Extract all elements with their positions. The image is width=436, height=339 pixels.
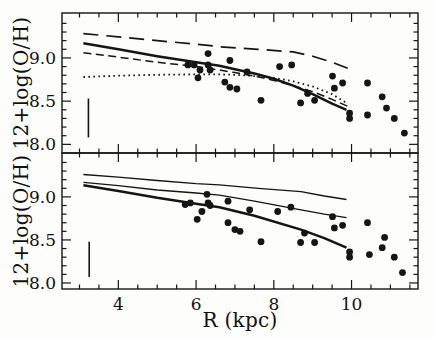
- bottom-panel-y-tick-label: 9.0: [29, 187, 56, 207]
- bottom-panel-data-point: [187, 200, 194, 207]
- top-panel-data-point: [401, 130, 408, 137]
- bottom-panel-model-middle-solid-thin-line: [83, 182, 346, 217]
- bottom-panel-y-tick-label: 8.5: [29, 230, 56, 250]
- top-panel-y-axis-label: 12+log(O/H): [9, 17, 33, 150]
- top-panel-model-short-dash-line: [83, 53, 347, 107]
- top-panel-data-point: [379, 93, 386, 100]
- top-panel-data-point: [191, 62, 198, 69]
- abundance-gradient-figure: 8.08.59.08.08.59.046810 12+log(O/H) 12+l…: [0, 0, 436, 339]
- bottom-panel-data-point: [237, 228, 244, 235]
- top-panel-data-point: [288, 62, 295, 69]
- bottom-panel-data-point: [381, 234, 388, 241]
- top-panel-data-point: [258, 97, 265, 104]
- bottom-panel-data-point: [364, 219, 371, 226]
- x-tick-label: 4: [113, 294, 124, 314]
- top-panel-data-point: [221, 79, 228, 86]
- top-panel-data-point: [185, 62, 192, 69]
- bottom-panel-data-point: [366, 251, 373, 258]
- top-panel-model-solid-line: [83, 43, 346, 110]
- bottom-panel-data-point: [288, 204, 295, 211]
- top-panel-data-point: [197, 67, 204, 74]
- top-panel-data-point: [195, 74, 202, 81]
- bottom-panel-data-point: [258, 238, 265, 245]
- top-panel-model-dotted-line: [83, 74, 347, 103]
- two-panel-abundance-chart: 8.08.59.08.08.59.046810: [0, 0, 436, 339]
- top-panel-data-point: [304, 90, 311, 97]
- top-panel-data-point: [244, 68, 251, 75]
- top-panel-data-point: [297, 100, 304, 107]
- bottom-panel-data-point: [301, 230, 308, 237]
- bottom-panel-data-point: [207, 202, 214, 209]
- top-panel-data-point: [207, 67, 214, 74]
- top-panel-data-point: [346, 115, 353, 122]
- top-panel-data-point: [234, 86, 241, 93]
- top-panel-data-point: [391, 115, 398, 122]
- top-panel-data-point: [364, 112, 371, 119]
- x-tick-label: 10: [341, 294, 363, 314]
- bottom-panel-data-point: [311, 239, 318, 246]
- top-panel-data-point: [205, 50, 212, 57]
- top-panel-y-tick-label: 9.0: [29, 48, 56, 68]
- bottom-panel-data-point: [346, 254, 353, 261]
- top-panel-data-point: [276, 63, 283, 70]
- x-tick-label: 6: [191, 294, 202, 314]
- bottom-panel-data-point: [204, 191, 211, 198]
- bottom-panel-data-point: [246, 206, 253, 213]
- bottom-panel-data-point: [391, 254, 398, 261]
- bottom-panel-data-point: [399, 269, 406, 276]
- bottom-panel-data-point: [225, 219, 232, 226]
- top-panel-data-point: [329, 73, 336, 80]
- top-panel-data-point: [364, 80, 371, 87]
- bottom-panel-data-point: [225, 198, 232, 205]
- bottom-panel-data-point: [329, 213, 336, 220]
- top-panel-data-point: [331, 85, 338, 92]
- bottom-panel-data-point: [194, 216, 201, 223]
- bottom-panel-data-point: [331, 225, 338, 232]
- bottom-panel-model-upper-solid-thin-line: [83, 175, 346, 200]
- top-panel-y-tick-label: 8.0: [29, 134, 56, 154]
- top-panel-data-point: [227, 84, 234, 91]
- bottom-panel-data-point: [339, 222, 346, 229]
- bottom-panel-y-tick-label: 8.0: [29, 273, 56, 293]
- top-panel-data-point: [383, 105, 390, 112]
- bottom-panel-data-point: [274, 208, 281, 215]
- x-axis-label: R (kpc): [202, 308, 277, 332]
- top-panel-y-tick-label: 8.5: [29, 91, 56, 111]
- top-panel-data-point: [311, 97, 318, 104]
- bottom-panel-data-point: [199, 208, 206, 215]
- bottom-panel-data-point: [379, 244, 386, 251]
- top-panel-data-point: [339, 80, 346, 87]
- top-panel-data-point: [227, 57, 234, 64]
- bottom-panel-y-axis-label: 12+log(O/H): [9, 155, 33, 288]
- bottom-panel-data-point: [297, 239, 304, 246]
